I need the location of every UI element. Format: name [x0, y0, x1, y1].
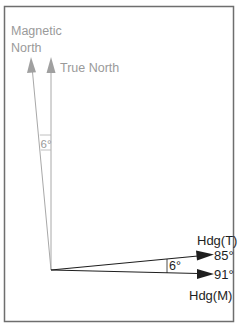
magnetic-north-label-line1: Magnetic	[11, 24, 62, 38]
heading-variation-label: 6°	[169, 259, 181, 273]
north-variation-label: 6°	[41, 138, 52, 150]
magnetic-north-label-line2: North	[11, 41, 42, 55]
true-north-label: True North	[60, 61, 119, 75]
variation-diagram: Magnetic North True North 6° 6° Hdg(T) 8…	[0, 0, 238, 327]
heading-variation-angle: 6°	[167, 259, 181, 273]
north-variation-angle: 6°	[40, 135, 52, 150]
true-heading-label: Hdg(T)	[197, 233, 237, 248]
magnetic-heading-value: 91°	[214, 267, 234, 282]
magnetic-heading-label: Hdg(M)	[189, 288, 232, 303]
true-heading-value: 85°	[214, 248, 234, 263]
